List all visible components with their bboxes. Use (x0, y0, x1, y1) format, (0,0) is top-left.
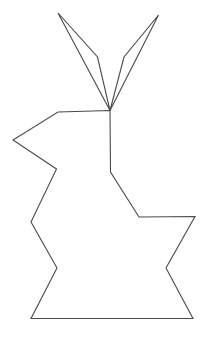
canvas-background (0, 0, 213, 340)
drawing-canvas: Rabbit silhouette outline drawing (0, 0, 213, 340)
rabbit-outline-svg: Rabbit silhouette outline drawing (0, 0, 213, 340)
